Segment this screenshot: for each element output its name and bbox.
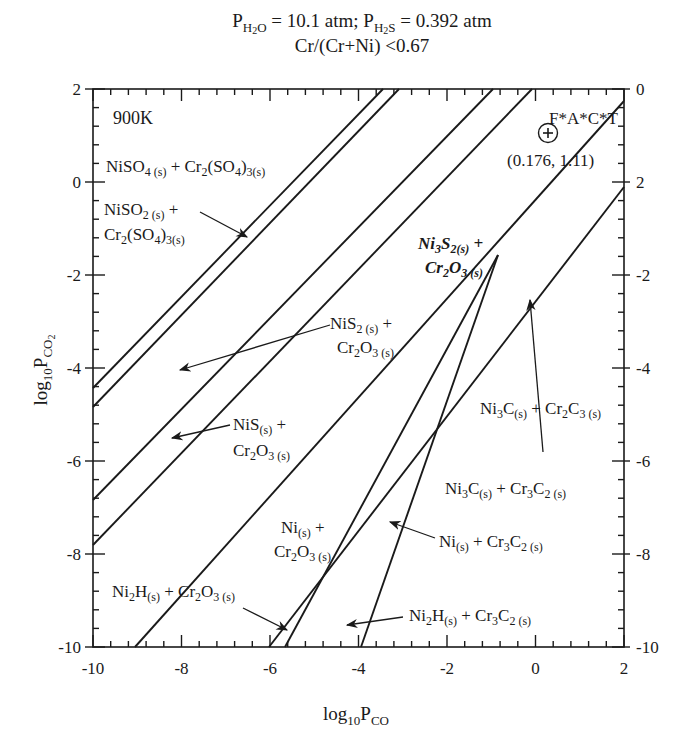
tick-label: -8 [636, 545, 650, 564]
region-ni-cr2o3-label-2: Cr2O3 (s) [274, 542, 331, 564]
tick-label: -8 [174, 659, 188, 678]
tick-label: -2 [440, 659, 454, 678]
tick-label: -10 [82, 659, 105, 678]
arrow-ni-cr3c2 [390, 522, 435, 538]
chart-title-line2: Cr/(Cr+Ni) <0.67 [295, 35, 429, 57]
tick-label: -2 [636, 266, 650, 285]
arrow-ni2h-cr3c2 [347, 617, 403, 625]
fact-label: F*A*C*T [549, 109, 619, 128]
region-ni-cr2o3-label-1: Ni(s) + [281, 518, 325, 540]
phase-diagram: PH2O = 10.1 atm; PH2S = 0.392 atm Cr/(Cr… [0, 0, 684, 741]
region-labels: 900K NiSO4 (s) + Cr2(SO4)3(s) NiSO2 (s) … [104, 108, 619, 628]
fact-coordinates: (0.176, 1.11) [507, 151, 594, 170]
arrow-nis2 [180, 325, 330, 370]
x-axis-title: log10PCO [323, 703, 389, 728]
region-niso2-label-2: Cr2(SO4)3(s) [104, 225, 185, 247]
region-nis2-label-2: Cr2O3 (s) [337, 338, 394, 360]
tick-label: -4 [351, 659, 366, 678]
arrow-nis [172, 425, 230, 438]
region-niso4-cr2so43: NiSO4 (s) + Cr2(SO4)3(s) [106, 157, 265, 179]
tick-label: -6 [636, 452, 650, 471]
region-ni3c-cr3c2: Ni3C(s) + Cr3C2 (s) [445, 479, 566, 501]
tick-label: 2 [73, 80, 82, 99]
tick-label: 0 [531, 659, 540, 678]
arrow-ni3c-cr2c3 [530, 300, 543, 452]
tick-label: 0 [73, 173, 82, 192]
region-nis-label-1: NiS(s) + [233, 415, 286, 437]
region-nis2-label-1: NiS2 (s) + [330, 314, 392, 336]
temperature-label: 900K [113, 108, 153, 128]
region-ni3s2-label-1: Ni3S2(s) + [417, 234, 483, 256]
tick-label: -10 [58, 638, 81, 657]
region-nis-label-2: Cr2O3 (s) [233, 441, 290, 463]
tick-label: -6 [263, 659, 277, 678]
arrow-niso2 [200, 212, 247, 237]
region-niso2-label-1: NiSO2 (s) + [104, 200, 178, 222]
y-axis-title: log10PCO2 [30, 335, 57, 406]
arrow-ni2h-cr2o3 [243, 608, 287, 630]
fact-point-marker [539, 124, 558, 143]
tick-label: -8 [67, 545, 81, 564]
boundary-line-5 [135, 101, 624, 647]
tick-label: -4 [67, 359, 82, 378]
region-ni-cr3c2: Ni(s) + Cr3C2 (s) [439, 532, 543, 554]
region-ni3s2-label-2: Cr2O3 (s) [425, 258, 483, 280]
region-ni3c-cr2c3: Ni3C(s) + Cr2C3 (s) [480, 399, 601, 421]
tick-label: -6 [67, 452, 81, 471]
region-ni2h-cr2o3: Ni2H(s) + Cr2O3 (s) [112, 582, 235, 604]
tick-label: -10 [636, 638, 659, 657]
region-ni2h-cr3c2: Ni2H(s) + Cr3C2 (s) [409, 606, 531, 628]
tick-label: 0 [636, 80, 645, 99]
tick-label: -4 [636, 359, 651, 378]
tick-label: -2 [67, 266, 81, 285]
chart-title-line1: PH2O = 10.1 atm; PH2S = 0.392 atm [232, 10, 492, 36]
boundary-line-4 [93, 89, 532, 545]
tick-label: 2 [620, 659, 629, 678]
tick-label: 2 [636, 173, 645, 192]
